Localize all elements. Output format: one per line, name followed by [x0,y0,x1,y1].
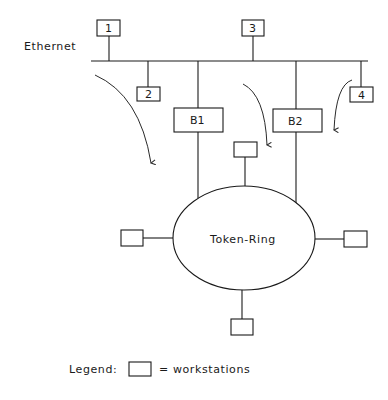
ring-workstation-top[interactable] [234,142,257,186]
node-3-label: 3 [249,22,256,35]
legend-title: Legend: [69,363,117,376]
ring-workstation-bottom[interactable] [231,290,253,335]
node-1-label: 1 [105,22,112,35]
bridge-b2[interactable]: B2 [273,61,322,204]
network-diagram: Ethernet 1 3 2 4 B1 [0,0,388,400]
bridge-b1-label: B1 [190,114,205,127]
arrow-right-icon [334,80,352,130]
ring-workstation-left[interactable] [121,230,173,246]
arrow-middle-icon [243,84,267,145]
workstation-node-1[interactable]: 1 [97,20,120,61]
workstation-node-4[interactable]: 4 [350,61,373,102]
legend-workstation-icon [129,362,151,376]
diagram-svg: Ethernet 1 3 2 4 B1 [0,0,388,400]
bridge-b2-label: B2 [288,115,303,128]
workstation-node-3[interactable]: 3 [242,20,264,61]
ring-workstation-right[interactable] [315,231,367,247]
bridge-b1[interactable]: B1 [174,61,223,198]
legend: Legend: = workstations [69,362,250,376]
legend-text: = workstations [159,363,250,376]
ethernet-label: Ethernet [24,40,76,53]
node-4-label: 4 [358,89,365,102]
token-ring-label: Token-Ring [209,233,276,246]
workstation-node-2[interactable]: 2 [137,61,160,101]
node-2-label: 2 [145,88,152,101]
